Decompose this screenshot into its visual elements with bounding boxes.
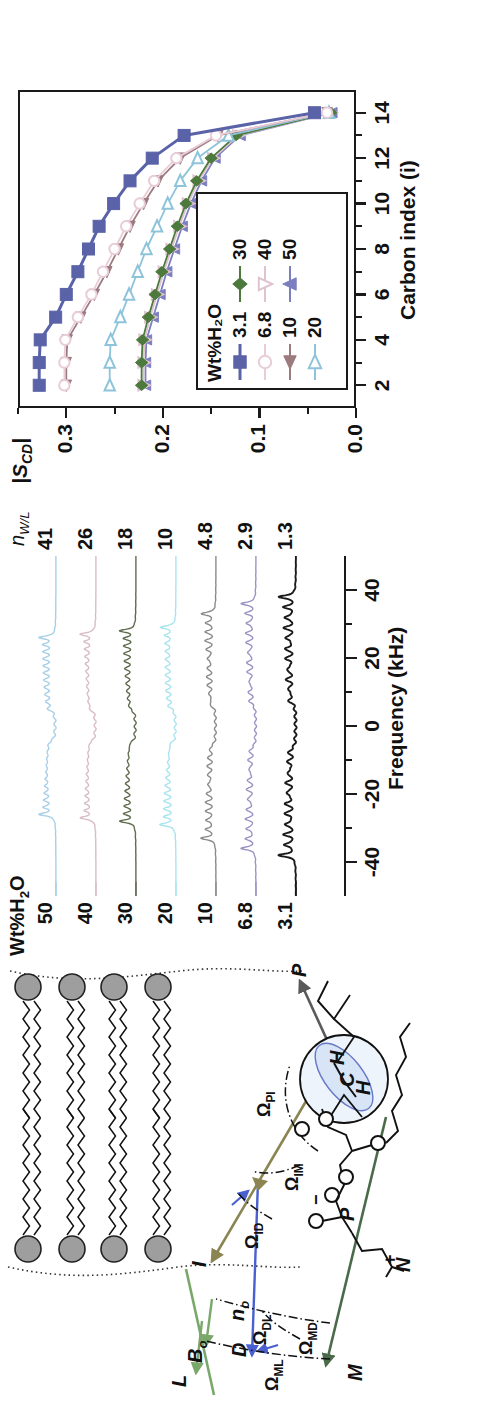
y-tick	[162, 408, 164, 418]
atom-O	[339, 1170, 353, 1184]
data-marker	[108, 198, 120, 210]
data-marker	[73, 312, 83, 322]
data-marker	[86, 289, 96, 299]
x-minor-tick	[356, 362, 362, 364]
spectrum-trace-30	[120, 556, 137, 896]
x-tick-label: 8	[370, 229, 394, 269]
atom-O	[371, 1136, 385, 1150]
figure-root: 0.00.10.20.3 2468101214 |SCD| Carbon ind…	[0, 0, 480, 1417]
legend-marker	[254, 342, 276, 382]
spectrum-line	[80, 556, 96, 896]
bond	[352, 1145, 372, 1151]
spectra-x-tick-label: 40	[360, 567, 384, 613]
spectra-wt-header: Wt%H2O	[6, 875, 32, 956]
atom-label-H: H	[326, 1051, 349, 1065]
data-marker	[192, 152, 202, 163]
x-tick	[356, 112, 366, 114]
vector-n-o	[258, 1345, 278, 1351]
spectra-x-minor-tick	[346, 623, 352, 625]
y-minor-tick	[17, 408, 19, 414]
data-marker	[98, 267, 108, 277]
spectra-nwl-header: nW/L	[6, 511, 32, 546]
data-marker	[162, 197, 172, 208]
atom-O	[309, 1214, 323, 1228]
x-tick-label: 12	[370, 138, 394, 178]
data-marker	[34, 334, 46, 346]
acyl-chain	[153, 1001, 160, 1118]
spectra-panel: -40-2002040 Frequency (kHz) Wt%H2O nW/L …	[0, 510, 420, 950]
spectra-x-tick-label: -20	[360, 771, 384, 817]
frame-diagram-panel: LBoMDIPnoΩMLΩDLΩMDΩIDΩIMΩPIN+P−HCH	[0, 947, 420, 1417]
legend-item[interactable]: 10	[277, 304, 302, 382]
legend-item[interactable]: 50	[277, 239, 302, 304]
y-tick-label: 0.2	[150, 424, 174, 472]
spectrum-trace-20	[160, 556, 176, 896]
x-minor-tick	[356, 316, 362, 318]
bond	[386, 1023, 410, 1143]
vector-label-L: L	[168, 1375, 191, 1387]
y-axis-title: |SCD|	[8, 438, 35, 484]
legend-label: 50	[280, 239, 299, 260]
spectra-nwl-label: 1.3	[274, 498, 297, 550]
acyl-chain	[120, 1118, 127, 1235]
vector-label-I: I	[188, 1261, 211, 1267]
atom-label-P: P	[336, 1208, 359, 1221]
data-marker	[149, 176, 159, 186]
y-tick	[258, 408, 260, 418]
x-minor-tick	[356, 271, 362, 273]
atom-O	[319, 1112, 333, 1126]
lipid-headgroup	[101, 1236, 127, 1262]
acyl-chain	[109, 1001, 116, 1118]
data-marker	[105, 356, 115, 367]
data-marker	[82, 243, 94, 255]
legend-item[interactable]: 6.8	[252, 304, 277, 382]
angle-label-omega-im: ΩIM	[282, 1163, 306, 1191]
spectrum-trace-3.1	[279, 556, 297, 896]
legend-label: 6.8	[255, 312, 274, 338]
spectra-nwl-label: 2.9	[234, 498, 257, 550]
legend-item[interactable]: 20	[302, 304, 327, 382]
legend-item[interactable]: 30	[227, 239, 252, 304]
spectra-nwl-label: 41	[34, 498, 57, 550]
acyl-chain	[164, 1001, 171, 1118]
charge-label-plus: +	[380, 1254, 401, 1265]
acyl-chain	[23, 1109, 30, 1235]
charge-label-minus: −	[306, 1194, 327, 1205]
spectrum-line	[39, 556, 56, 896]
spectra-x-tick	[346, 589, 357, 591]
x-tick	[356, 248, 366, 250]
spectra-x-tick-label: -40	[360, 839, 384, 885]
lipid-headgroup	[15, 1236, 41, 1262]
x-minor-tick	[356, 134, 362, 136]
vector-label-P: P	[288, 964, 311, 977]
spectra-nwl-label: 4.8	[194, 498, 217, 550]
lipid-headgroup	[59, 974, 85, 1000]
data-marker	[232, 278, 246, 290]
acyl-chain	[109, 1109, 116, 1235]
legend-column: 304050	[202, 239, 342, 304]
data-marker	[124, 288, 134, 299]
legend-item[interactable]: 3.1	[227, 304, 252, 382]
spectra-x-minor-tick	[346, 759, 352, 761]
spectra-nwl-label: 18	[114, 498, 137, 550]
legend-marker	[279, 264, 301, 304]
x-tick-label: 4	[370, 320, 394, 360]
spectra-svg	[10, 556, 340, 896]
spectra-nwl-label: 10	[154, 498, 177, 550]
data-marker	[115, 311, 125, 322]
spectrum-line	[160, 556, 176, 896]
x-tick-label: 14	[370, 93, 394, 133]
spectra-x-tick-label: 20	[360, 635, 384, 681]
y-tick	[65, 408, 67, 418]
x-minor-tick	[356, 180, 362, 182]
y-minor-tick	[114, 408, 116, 414]
angle-label-omega-dl: ΩDL	[250, 1315, 274, 1345]
data-marker	[146, 152, 158, 164]
spectrum-trace-10	[201, 556, 217, 896]
legend-item[interactable]: 40	[252, 239, 277, 304]
y-minor-tick	[307, 408, 309, 414]
data-marker	[59, 380, 69, 390]
data-marker	[283, 356, 295, 369]
data-marker	[308, 107, 320, 119]
acyl-chain	[67, 1109, 74, 1235]
